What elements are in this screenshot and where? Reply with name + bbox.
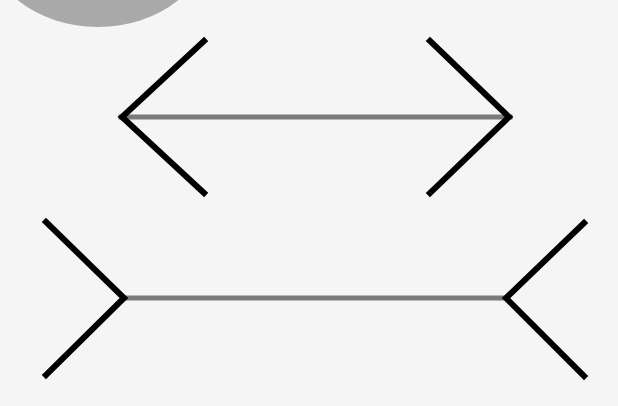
muller-lyer-diagram bbox=[0, 0, 618, 406]
bottom-right-fins bbox=[506, 223, 584, 376]
top-figure bbox=[121, 41, 510, 193]
gray-blob bbox=[0, 0, 210, 27]
bottom-left-fins bbox=[46, 222, 124, 375]
bottom-figure bbox=[46, 222, 584, 376]
